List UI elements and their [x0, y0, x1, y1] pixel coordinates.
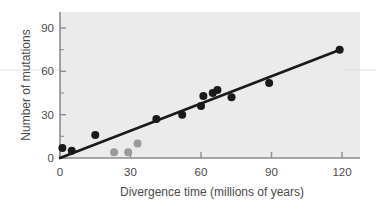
plot-area-background [60, 12, 360, 158]
data-point [91, 131, 99, 139]
data-point [197, 102, 205, 110]
x-axis: 0306090120 Divergence time (millions of … [57, 152, 360, 199]
y-tick-label: 0 [48, 152, 54, 164]
data-point [228, 93, 236, 101]
data-point [68, 147, 76, 155]
data-point [134, 140, 142, 148]
y-axis: 0306090 Number of mutations [19, 12, 66, 164]
y-axis-title: Number of mutations [19, 29, 33, 140]
y-tick-label: 60 [41, 65, 54, 77]
y-tick-label: 90 [41, 22, 54, 34]
x-tick-label: 120 [332, 166, 351, 178]
data-point [213, 86, 221, 94]
data-point [199, 92, 207, 100]
data-point [124, 148, 132, 156]
data-point [265, 79, 273, 87]
x-tick-label: 60 [195, 166, 208, 178]
data-point [110, 148, 118, 156]
x-tick-label: 0 [57, 166, 63, 178]
data-point [178, 111, 186, 119]
scatter-plot-figure: correlation between the relationship of … [0, 0, 376, 206]
x-tick-label: 30 [124, 166, 137, 178]
y-tick-label-group: 0306090 [41, 22, 54, 164]
x-axis-title: Divergence time (millions of years) [120, 185, 304, 199]
x-tick-label: 90 [265, 166, 278, 178]
data-point [58, 144, 66, 152]
chart-svg: 0306090 Number of mutations 0306090120 D… [0, 0, 376, 206]
data-point [336, 46, 344, 54]
x-tick-label-group: 0306090120 [57, 166, 352, 178]
y-tick-label: 30 [41, 109, 54, 121]
data-point [152, 115, 160, 123]
